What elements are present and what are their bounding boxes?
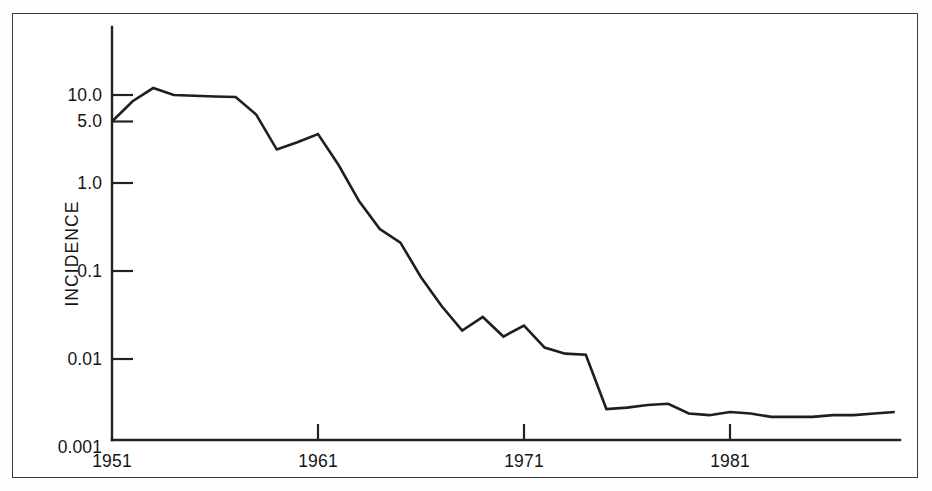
chart-plot-area [0, 0, 932, 491]
y-tick-label: 5.0 [77, 111, 102, 132]
y-tick-label: 0.01 [68, 349, 102, 370]
x-axis-tick-marks [318, 424, 730, 440]
incidence-series-line [112, 88, 895, 417]
figure-container: INCIDENCE 10.05.01.00.10.010.001 1951196… [0, 0, 932, 491]
x-tick-label: 1971 [504, 451, 544, 472]
y-tick-label: 10.0 [68, 85, 102, 106]
y-axis-tick-marks [112, 95, 133, 359]
y-tick-label: 1.0 [77, 173, 102, 194]
x-tick-label: 1961 [298, 451, 338, 472]
x-tick-label: 1951 [92, 451, 132, 472]
x-tick-label: 1981 [710, 451, 750, 472]
y-tick-label: 0.1 [77, 261, 102, 282]
